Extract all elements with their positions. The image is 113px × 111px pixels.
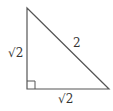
right-angle-marker: [27, 81, 35, 89]
hypotenuse-label: 2: [73, 36, 81, 50]
triangle-diagram: √2 2 √2: [0, 0, 113, 111]
bottom-leg-label: √2: [58, 92, 73, 106]
left-leg-label: √2: [8, 46, 23, 60]
right-triangle: [27, 8, 109, 89]
